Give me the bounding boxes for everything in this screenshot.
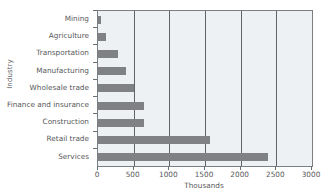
bar: [98, 84, 134, 92]
plot-area: [97, 10, 313, 167]
bar-row: [98, 114, 312, 131]
x-axis-title: Thousands: [97, 181, 311, 190]
y-axis-tick-label: Transportation: [0, 44, 93, 61]
bar: [98, 119, 144, 127]
bar: [98, 136, 210, 144]
bar-series: [98, 11, 312, 166]
y-axis-tick-label: Retail trade: [0, 131, 93, 148]
y-axis-tick-label: Services: [0, 148, 93, 165]
bar-row: [98, 149, 312, 166]
bar-row: [98, 45, 312, 62]
bar-row: [98, 80, 312, 97]
bar-row: [98, 63, 312, 80]
y-axis-tick-label: Wholesale trade: [0, 79, 93, 96]
y-axis-category-labels: Mining Agriculture Transportation Manufa…: [0, 10, 93, 165]
bar-row: [98, 28, 312, 45]
bar: [98, 33, 106, 41]
bar-row: [98, 132, 312, 149]
x-axis-tick-label: 2000: [230, 170, 249, 180]
y-axis-tick-label: Mining: [0, 10, 93, 27]
bar: [98, 50, 118, 58]
x-axis-tick-label: 1500: [195, 170, 214, 180]
bar-row: [98, 97, 312, 114]
y-axis-tick-label: Construction: [0, 113, 93, 130]
x-axis-tick-labels: 050010001500200025003000: [97, 170, 311, 180]
bar: [98, 67, 126, 75]
bar: [98, 16, 101, 24]
x-axis-tick-label: 1000: [159, 170, 178, 180]
y-axis-tick-label: Finance and insurance: [0, 96, 93, 113]
bar: [98, 153, 268, 161]
y-axis-tick-label: Agriculture: [0, 27, 93, 44]
bar-chart: Industry Mining Agriculture Transportati…: [0, 0, 323, 192]
x-axis-tick-label: 500: [126, 170, 140, 180]
y-axis-tick-label: Manufacturing: [0, 62, 93, 79]
bar: [98, 102, 144, 110]
x-axis-tick-label: 3000: [302, 170, 321, 180]
bar-row: [98, 11, 312, 28]
x-axis-tick-label: 0: [95, 170, 100, 180]
x-axis-tick-label: 2500: [266, 170, 285, 180]
